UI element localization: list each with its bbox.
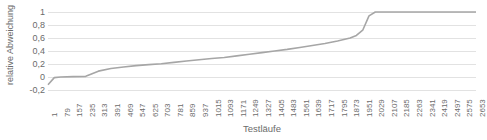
x-axis-tick-label: 2575 <box>466 99 474 117</box>
x-axis-tick-label: 859 <box>189 104 197 117</box>
y-axis-tick-label: -0,2 <box>18 86 45 95</box>
x-axis-tick-label: 2341 <box>429 99 437 117</box>
x-axis-tick-label: 1717 <box>328 99 336 117</box>
y-axis-tick-label: 0,2 <box>18 60 45 69</box>
x-axis-tick-label: 1405 <box>278 99 286 117</box>
x-axis-tick-label: 547 <box>139 104 147 117</box>
x-axis-title: Testläufe <box>48 123 476 134</box>
x-axis-tick-label: 313 <box>101 104 109 117</box>
x-axis-tick-label: 937 <box>202 104 210 117</box>
x-axis-tick-label: 1951 <box>366 99 374 117</box>
x-axis-tick-label: 1873 <box>353 99 361 117</box>
x-axis-tick-label: 1795 <box>341 99 349 117</box>
x-axis-tick-label: 469 <box>127 104 135 117</box>
x-axis-tick-label: 1327 <box>265 99 273 117</box>
x-axis-tick-label: 79 <box>64 108 72 117</box>
y-axis-title: relative Abweichung <box>5 0 15 92</box>
x-axis-tick-label: 2263 <box>416 99 424 117</box>
series-line-chart <box>48 12 476 90</box>
x-axis-tick-label: 1 <box>51 113 59 117</box>
x-axis-tick-label: 2107 <box>391 99 399 117</box>
x-axis-tick-label: 1171 <box>240 100 248 117</box>
y-axis-tick-label: 0 <box>18 73 45 82</box>
y-axis-tick-label: 0,8 <box>18 21 45 30</box>
x-axis-tick-label: 2185 <box>403 99 411 117</box>
x-axis-tick-label: 2419 <box>441 99 449 117</box>
x-axis-tick-label: 157 <box>76 104 84 117</box>
y-axis-tick-label: 1 <box>18 8 45 17</box>
x-axis-tick-label: 1561 <box>303 99 311 117</box>
y-axis-tick-label: 0,4 <box>18 47 45 56</box>
x-axis-tick-label: 2029 <box>378 99 386 117</box>
x-axis-tick-label: 781 <box>177 104 185 117</box>
plot-area <box>48 12 476 90</box>
y-axis-tick-label: 0,6 <box>18 34 45 43</box>
x-axis-tick-label: 625 <box>152 104 160 117</box>
x-axis-tick-label: 2653 <box>479 99 487 117</box>
x-axis-tick-label: 1015 <box>215 99 223 117</box>
x-axis-tick-labels: 1791572353133914695476257037818599371015… <box>48 91 476 119</box>
x-axis-tick-label: 1483 <box>290 99 298 117</box>
x-axis-tick-label: 1249 <box>252 99 260 117</box>
x-axis-tick-label: 703 <box>164 104 172 117</box>
series-line-relative-abweichung <box>48 12 476 85</box>
x-axis-tick-label: 1639 <box>315 99 323 117</box>
x-axis-tick-label: 1093 <box>227 99 235 117</box>
y-axis-tick-labels: 10,80,60,40,20-0,2 <box>18 0 45 94</box>
x-axis-tick-label: 235 <box>89 104 97 117</box>
x-axis-tick-label: 391 <box>114 104 122 117</box>
x-axis-tick-label: 2497 <box>454 99 462 117</box>
